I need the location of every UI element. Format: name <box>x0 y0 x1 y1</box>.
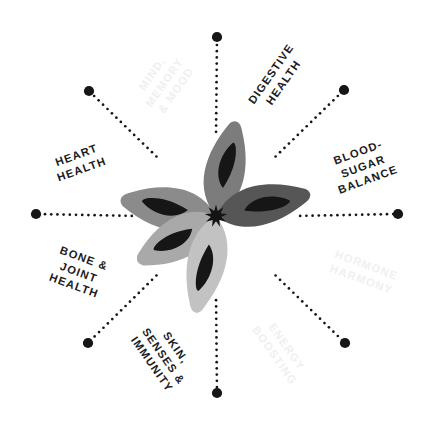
flower-graphic <box>0 0 434 428</box>
wellness-radial-diagram: MIND, MEMORY & MOODDIGESTIVE HEALTHBLOOD… <box>0 0 434 428</box>
